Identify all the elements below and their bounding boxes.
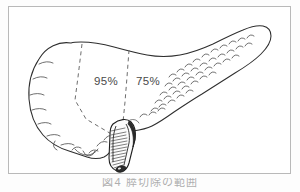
figure-caption-text: 図4 膵切除の範囲 [0, 178, 300, 189]
pancreas-outline-group [29, 26, 271, 159]
figure-frame: 95% 75% [8, 6, 291, 174]
duodenum-group [109, 119, 139, 173]
pancreas-illustration: 95% 75% [9, 7, 292, 175]
label-75-percent: 75% [136, 75, 160, 87]
label-95-percent: 95% [94, 75, 118, 87]
pancreas-outline [29, 26, 271, 159]
figure-root: 95% 75% [0, 0, 300, 192]
figure-caption: 図4 膵切除の範囲 [0, 178, 300, 192]
